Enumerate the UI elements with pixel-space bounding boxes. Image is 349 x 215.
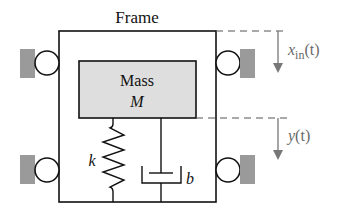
mass-label: Mass — [120, 72, 154, 89]
output-displacement-label: y(t) — [286, 127, 310, 145]
mass-symbol: M — [129, 93, 145, 110]
output-displacement-arrow-icon — [273, 118, 283, 160]
right-bottom-roller — [216, 155, 255, 184]
left-top-ground-block — [20, 49, 35, 78]
input-displacement-arrow-icon — [273, 31, 283, 73]
right-top-ground-block — [240, 49, 255, 78]
spring — [103, 118, 124, 202]
right-top-roller — [216, 49, 255, 78]
frame-title: Frame — [115, 8, 158, 27]
left-bottom-wheel — [35, 158, 59, 182]
left-top-roller — [20, 49, 59, 78]
spring-symbol: k — [88, 152, 96, 169]
right-bottom-ground-block — [240, 155, 255, 184]
input-displacement-label: xin(t) — [287, 41, 320, 62]
left-top-wheel — [35, 51, 59, 75]
mass-spring-damper-diagram: Frame Mass M k b xin(t) — [0, 0, 349, 215]
left-bottom-roller — [20, 155, 59, 184]
right-bottom-wheel — [216, 158, 240, 182]
damper-symbol: b — [186, 170, 194, 187]
right-top-wheel — [216, 51, 240, 75]
left-bottom-ground-block — [20, 155, 35, 184]
damper — [142, 118, 181, 202]
